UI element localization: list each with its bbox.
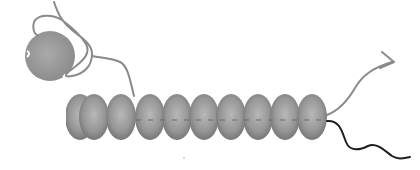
black-wavy-tail <box>327 121 410 158</box>
bead-6 <box>189 94 219 140</box>
bead-2 <box>79 94 109 140</box>
bead-10 <box>297 94 327 140</box>
linker-strand <box>92 56 134 96</box>
bead-3 <box>106 94 136 140</box>
bead-7 <box>216 94 246 140</box>
gray-arrow-tail <box>327 52 394 115</box>
bead-9 <box>270 94 300 140</box>
bead-chain-diagram <box>0 0 420 170</box>
bead-8 <box>243 94 273 140</box>
bead-chain <box>65 94 327 140</box>
bead-5 <box>162 94 192 140</box>
artifact-dot <box>183 157 185 159</box>
bead-4 <box>135 94 165 140</box>
diagram-canvas <box>0 0 420 170</box>
